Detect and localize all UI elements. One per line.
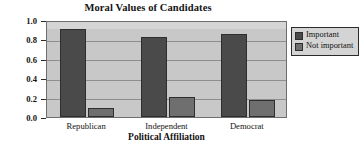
x-axis-tick-label: Democrat: [207, 121, 287, 131]
y-axis-tick: [41, 79, 46, 80]
x-axis-tick-label: Republican: [46, 121, 126, 131]
bar: [221, 34, 247, 117]
y-axis-tick: [41, 60, 46, 61]
bar: [249, 100, 275, 117]
legend: Important Not important: [291, 27, 359, 56]
y-axis-tick-label: 0.6: [3, 55, 37, 65]
y-axis-tick: [41, 99, 46, 100]
bar: [88, 108, 114, 117]
plot-area: [46, 21, 287, 118]
y-axis-tick-label: 0.0: [3, 113, 37, 123]
y-axis-tick-label: 0.2: [3, 94, 37, 104]
x-axis-title: Political Affiliation: [46, 132, 287, 142]
y-axis-tick-label: 1.0: [3, 16, 37, 26]
x-axis-tick-label: Independent: [127, 121, 207, 131]
legend-item: Not important: [295, 41, 356, 51]
bar: [169, 97, 195, 117]
legend-swatch-not-important-icon: [295, 43, 303, 51]
chart-screenshot: Moral Values of Candidates Relative Freq…: [0, 0, 364, 147]
legend-label-important: Important: [306, 30, 339, 40]
bar: [141, 37, 167, 117]
bar: [60, 29, 86, 117]
y-axis-tick: [41, 21, 46, 22]
chart-title: Moral Values of Candidates: [0, 2, 296, 13]
legend-item: Important: [295, 30, 356, 40]
y-axis-tick-label: 0.8: [3, 35, 37, 45]
y-axis-tick-label: 0.4: [3, 74, 37, 84]
y-axis-tick: [41, 118, 46, 119]
y-axis-tick: [41, 40, 46, 41]
legend-swatch-important-icon: [295, 32, 303, 40]
legend-label-not-important: Not important: [306, 41, 353, 51]
